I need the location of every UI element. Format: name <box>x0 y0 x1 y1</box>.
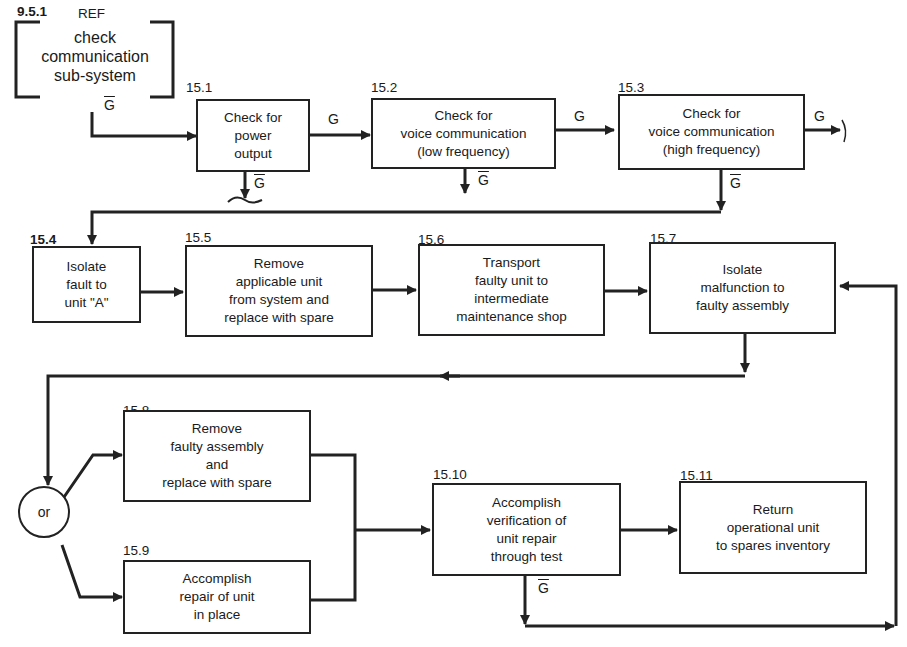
ref-nogo-label: G <box>104 97 115 113</box>
step-15-1-number: 15.1 <box>186 80 212 95</box>
step-15-3-number: 15.3 <box>618 80 644 95</box>
go-label-15-1: G <box>328 111 339 127</box>
reference-text: check communication sub-system <box>18 28 172 85</box>
step-15-2-number: 15.2 <box>371 80 397 95</box>
step-15-9-number: 15.9 <box>123 543 149 558</box>
nogo-label-15-10: G <box>538 580 549 596</box>
reference-tag: REF <box>78 6 105 21</box>
step-15-10-box[interactable]: Accomplish verification of unit repair t… <box>432 483 621 576</box>
reference-number: 9.5.1 <box>17 4 47 19</box>
go-label-15-3: G <box>814 108 825 124</box>
step-15-9-box[interactable]: Accomplish repair of unit in place <box>123 560 311 634</box>
nogo-label-15-3: G <box>730 175 741 191</box>
step-15-3-box[interactable]: Check for voice communication (high freq… <box>618 94 805 170</box>
nogo-label-15-2: G <box>478 172 489 188</box>
step-15-7-box[interactable]: Isolate malfunction to faulty assembly <box>649 242 836 334</box>
nogo-label-15-1: G <box>254 175 265 191</box>
step-15-8-box[interactable]: Remove faulty assembly and replace with … <box>123 410 311 502</box>
or-decision-node[interactable]: or <box>18 486 70 538</box>
step-15-4-box[interactable]: Isolate fault to unit "A" <box>32 246 141 323</box>
step-15-6-box[interactable]: Transport faulty unit to intermediate ma… <box>418 244 605 336</box>
step-15-5-box[interactable]: Remove applicable unit from system and r… <box>185 245 373 337</box>
step-15-2-box[interactable]: Check for voice communication (low frequ… <box>371 98 556 169</box>
step-15-1-box[interactable]: Check for power output <box>196 99 310 172</box>
step-15-10-number: 15.10 <box>433 467 467 482</box>
go-label-15-2: G <box>574 108 585 124</box>
step-15-11-box[interactable]: Return operational unit to spares invent… <box>679 481 867 574</box>
step-15-4-number: 15.4 <box>30 232 56 247</box>
step-15-5-number: 15.5 <box>185 230 211 245</box>
